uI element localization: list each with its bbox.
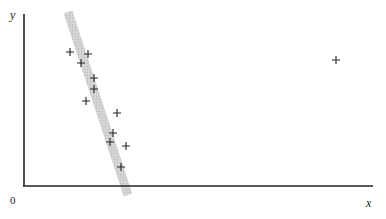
plus-marker-icon xyxy=(332,56,340,64)
plus-marker-icon xyxy=(82,97,90,105)
scatter-plot xyxy=(0,0,386,219)
data-points xyxy=(66,48,340,171)
plus-marker-icon xyxy=(66,48,74,56)
origin-label: 0 xyxy=(10,194,16,206)
plus-marker-icon xyxy=(122,142,130,150)
x-axis-label: x xyxy=(366,196,371,211)
y-axis-label: y xyxy=(10,8,15,23)
plus-marker-icon xyxy=(113,109,121,117)
